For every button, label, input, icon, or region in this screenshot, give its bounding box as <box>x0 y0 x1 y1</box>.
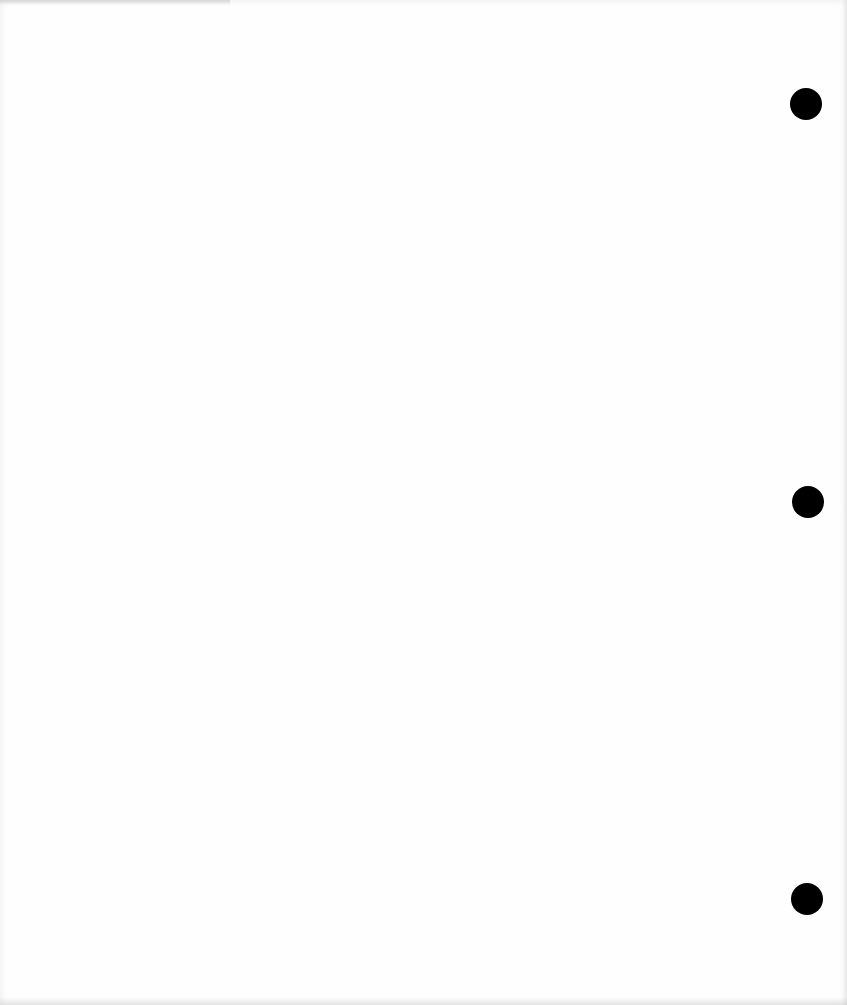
paper-bottom-edge-shadow <box>0 997 847 1005</box>
punch-hole-bottom <box>791 883 823 915</box>
paper-sheet <box>0 0 847 1005</box>
paper-top-edge-shadow <box>0 0 230 5</box>
paper-right-edge-shadow <box>842 0 847 1005</box>
punch-hole-middle <box>792 486 824 518</box>
punch-hole-top <box>790 88 822 120</box>
